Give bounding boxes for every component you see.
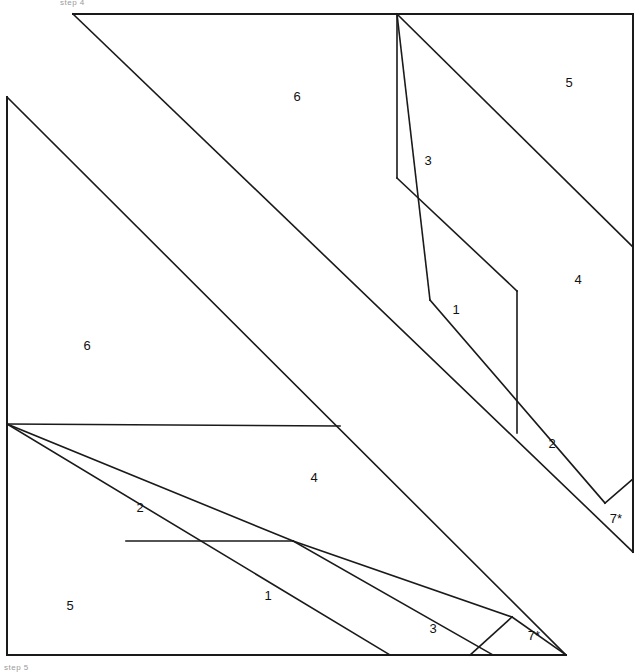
piece-label-7star-upper: 7* [610, 511, 622, 526]
lower-fan-to-vertex-4 [7, 424, 293, 541]
piece-label-5-lower: 5 [66, 598, 73, 613]
piece-label-3-lower: 3 [429, 621, 436, 636]
upper-hypotenuse-main [73, 14, 633, 552]
step-note-bottom: step 5 [4, 663, 29, 672]
piece-label-1-lower: 1 [264, 588, 271, 603]
piece-label-2-upper: 2 [548, 436, 555, 451]
piece-label-5-upper: 5 [565, 75, 572, 90]
piece-label-4-lower: 4 [310, 470, 317, 485]
piece-label-7star-lower: 7* [528, 628, 540, 643]
lower-hypotenuse-main [7, 97, 566, 655]
piece-label-6-lower: 6 [83, 338, 90, 353]
lower-horizontal-band [7, 424, 340, 426]
lower-fan-to-vertex-2 [7, 424, 390, 655]
upper-slant-3-to-1 [397, 178, 517, 291]
piece-label-4-upper: 4 [574, 272, 581, 287]
lower-slant-3-to-bottom [293, 541, 493, 655]
lower-7star-left-edge [470, 617, 512, 655]
piece-label-2-lower: 2 [136, 500, 143, 515]
segments-layer [7, 14, 633, 655]
step-note-top: step 4 [60, 0, 85, 7]
piece-label-3-upper: 3 [424, 153, 431, 168]
piece-label-6-upper: 6 [293, 89, 300, 104]
upper-7star-short-edge [605, 479, 633, 503]
lower-slant-1-to-3 [293, 541, 512, 617]
piece-label-1-upper: 1 [452, 302, 459, 317]
